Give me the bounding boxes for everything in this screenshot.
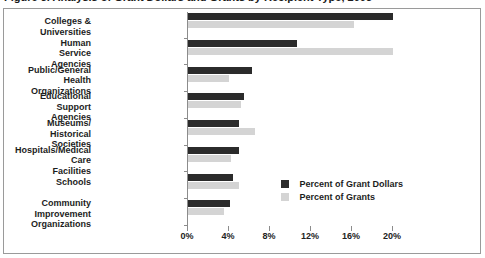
bar-grant-dollars xyxy=(188,93,244,100)
bar-grants xyxy=(188,182,239,189)
x-axis-tick-label: 16% xyxy=(342,231,360,241)
chart-legend: Percent of Grant Dollars Percent of Gran… xyxy=(281,173,403,199)
x-axis-tick-label: 12% xyxy=(301,231,319,241)
bar-grants xyxy=(188,48,393,55)
category-tick xyxy=(184,225,188,226)
x-axis-tick-label: 20% xyxy=(383,231,401,241)
bar-grant-dollars xyxy=(188,13,393,20)
bar-grants xyxy=(188,208,224,215)
bar-grant-dollars xyxy=(188,67,252,74)
legend-item: Percent of Grant Dollars xyxy=(281,173,403,186)
bar-row: Museums/ Historical Societies xyxy=(188,119,393,146)
bar-row: Educational Support Agencies xyxy=(188,92,393,119)
bar-row: Community Improvement Organizations xyxy=(188,199,393,226)
category-label: Colleges & Universities xyxy=(40,16,91,37)
legend-item: Percent of Grants xyxy=(281,186,403,199)
x-axis-tick-label: 8% xyxy=(262,231,275,241)
category-label: Community Improvement Organizations xyxy=(31,198,91,230)
figure-title: Figure 3. Analysis of Grant Dollars and … xyxy=(4,0,372,3)
legend-swatch-light-icon xyxy=(281,193,289,201)
bar-grants xyxy=(188,128,255,135)
bar-row: Public/General Health Organizations xyxy=(188,66,393,93)
bar-row: Human Service Agencies xyxy=(188,39,393,66)
category-label: Schools xyxy=(56,177,91,188)
bar-grant-dollars xyxy=(188,174,233,181)
bar-grants xyxy=(188,101,241,108)
chart-page: Figure 3. Analysis of Grant Dollars and … xyxy=(0,0,485,258)
bar-grant-dollars xyxy=(188,120,239,127)
bar-row: Hospitals/Medical Care Facilities xyxy=(188,146,393,173)
bar-grant-dollars xyxy=(188,40,297,47)
legend-label: Percent of Grants xyxy=(299,192,375,202)
bar-row: Colleges & Universities xyxy=(188,12,393,39)
bar-grants xyxy=(188,75,229,82)
x-axis-tick-label: 4% xyxy=(221,231,234,241)
figure-title-clip: Figure 3. Analysis of Grant Dollars and … xyxy=(0,0,485,7)
category-label: Hospitals/Medical Care Facilities xyxy=(15,145,91,177)
x-axis-tick-label: 0% xyxy=(180,231,193,241)
bar-grants xyxy=(188,21,354,28)
bar-grant-dollars xyxy=(188,147,239,154)
bar-grant-dollars xyxy=(188,200,230,207)
bar-grants xyxy=(188,155,231,162)
